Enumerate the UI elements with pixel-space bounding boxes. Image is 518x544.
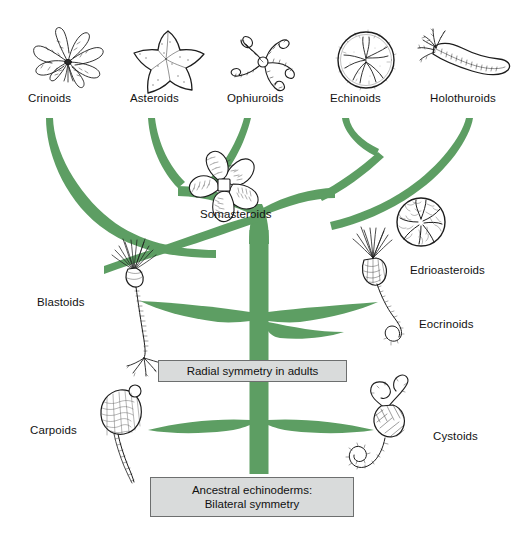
ancestral-line-1: Ancestral echinoderms:	[186, 483, 318, 497]
radial-symmetry-box: Radial symmetry in adults	[158, 360, 347, 382]
sea-cucumber-illustration	[418, 29, 510, 75]
label-asteroids: Asteroids	[130, 92, 179, 105]
branch-echinoids	[342, 118, 379, 156]
label-crinoids: Crinoids	[28, 92, 71, 105]
label-holothuroids: Holothuroids	[430, 92, 496, 105]
label-eocrinoids: Eocrinoids	[419, 318, 474, 331]
ancestral-line-2: Bilateral symmetry	[199, 497, 306, 511]
branch-carpoids	[148, 419, 250, 433]
cystoid-illustration	[346, 375, 408, 469]
branch-edrioasteroids	[268, 302, 378, 322]
branch-asteroids	[148, 118, 185, 188]
label-cystoids: Cystoids	[433, 430, 478, 443]
sea-urchin-illustration	[336, 30, 396, 90]
edrioasteroid-illustration	[397, 198, 445, 246]
ancestral-echinoderms-box: Ancestral echinoderms: Bilateral symmetr…	[150, 477, 354, 517]
branch-right-node-connector	[318, 152, 384, 201]
branch-eocrinoids	[268, 322, 344, 339]
branch-somasteroid-link	[104, 214, 258, 274]
branch-blastoids	[140, 301, 250, 322]
crinoid-illustration	[34, 28, 104, 88]
eocrinoid-illustration	[353, 227, 404, 345]
radial-symmetry-text: Radial symmetry in adults	[181, 364, 325, 378]
brittle-star-illustration	[231, 37, 294, 91]
label-carpoids: Carpoids	[30, 424, 77, 437]
label-echinoids: Echinoids	[330, 92, 381, 105]
carpoid-illustration	[101, 385, 141, 483]
starfish-illustration	[134, 31, 204, 93]
branch-trunk	[250, 230, 269, 474]
label-edrioasteroids: Edrioasteroids	[410, 264, 485, 277]
label-somasteroids: Somasteroids	[200, 208, 272, 221]
label-blastoids: Blastoids	[37, 296, 85, 309]
branch-cystoids	[268, 419, 374, 433]
label-ophiuroids: Ophiuroids	[227, 92, 284, 105]
